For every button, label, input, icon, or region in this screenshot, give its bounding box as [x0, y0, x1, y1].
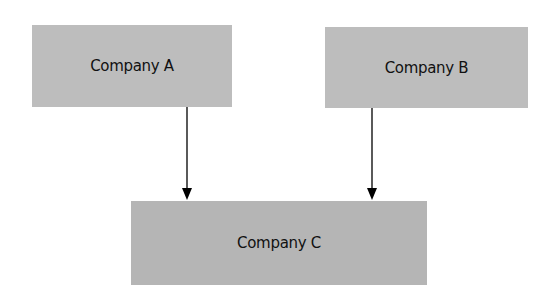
- arrowhead-icon: [367, 188, 377, 200]
- edges: [0, 0, 551, 302]
- edge-a-to-c: [182, 107, 192, 200]
- edge-b-to-c: [367, 108, 377, 200]
- arrowhead-icon: [182, 188, 192, 200]
